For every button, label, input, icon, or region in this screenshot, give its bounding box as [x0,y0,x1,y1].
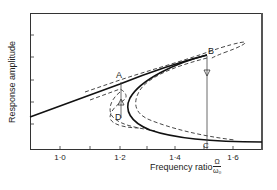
point-label-a: A [116,70,122,80]
fraction-numerator: Ω [213,158,221,167]
fraction-denominator: ω₀ [213,167,221,175]
x-tick-1-2: 1·2 [114,153,126,162]
point-label-c: C [203,141,209,150]
x-tick-1-4: 1·4 [169,153,181,162]
point-label-d: D [115,112,122,122]
solid-response-curve [30,55,207,117]
x-axis-fraction: Ω ω₀ [213,158,221,175]
plot-frame-right-edge [261,13,263,150]
y-axis-label: Response amplitude [7,41,17,123]
x-axis-label: Frequency ratio [150,162,213,172]
point-label-b: B [208,46,214,56]
solid-fold-curve [128,55,262,142]
x-tick-1-0: 1·0 [54,153,66,162]
y-ticks [31,35,34,124]
x-tick-1-6: 1·6 [227,153,239,162]
